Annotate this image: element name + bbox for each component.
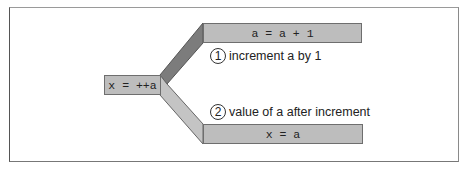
- step-1-number-icon: 1: [210, 48, 226, 64]
- source-expression: x = ++a: [108, 79, 156, 92]
- step-2-description: value of a after increment: [229, 105, 370, 119]
- source-expression-box: x = ++a: [104, 75, 161, 95]
- lower-connector: [160, 75, 203, 144]
- step-1-note: 1 increment a by 1: [210, 48, 321, 64]
- step-1-code: a = a + 1: [251, 27, 313, 40]
- step-2-number-icon: 2: [210, 104, 226, 120]
- step-2-code-box: x = a: [203, 124, 363, 144]
- step-2-note: 2 value of a after increment: [210, 104, 370, 120]
- upper-connector: [160, 23, 203, 84]
- step-1-description: increment a by 1: [229, 49, 321, 63]
- step-1-code-box: a = a + 1: [203, 23, 362, 43]
- step-2-code: x = a: [266, 128, 301, 141]
